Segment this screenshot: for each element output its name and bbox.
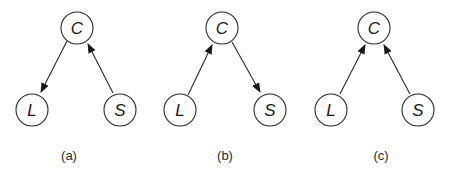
caption-a: (a) [61, 148, 77, 163]
panel-b: C L S (b) [164, 12, 286, 163]
node-s: S [254, 94, 286, 126]
node-l: L [16, 94, 48, 126]
node-c: C [358, 12, 390, 44]
node-c: C [61, 12, 93, 44]
caption-c: (c) [373, 148, 388, 163]
svg-text:C: C [368, 19, 381, 38]
edge-l-to-c [188, 45, 212, 95]
panel-a: C L S (a) [16, 12, 136, 163]
node-l: L [164, 94, 196, 126]
svg-text:L: L [27, 101, 36, 120]
node-l: L [315, 94, 347, 126]
panel-c: C L S (c) [315, 12, 434, 163]
svg-text:L: L [326, 101, 335, 120]
edge-s-to-c [384, 45, 410, 94]
edge-c-to-l [41, 41, 67, 92]
svg-text:S: S [114, 101, 126, 120]
svg-text:C: C [71, 19, 84, 38]
edge-l-to-c [340, 45, 365, 94]
node-c: C [206, 12, 238, 44]
node-s: S [402, 94, 434, 126]
svg-text:C: C [216, 19, 229, 38]
svg-text:L: L [175, 101, 184, 120]
edge-s-to-c [88, 44, 113, 93]
caption-b: (b) [217, 148, 233, 163]
causal-diagrams-figure: C L S (a) C L S (b) [0, 0, 453, 171]
node-s: S [104, 94, 136, 126]
svg-text:S: S [412, 101, 424, 120]
svg-text:S: S [264, 101, 276, 120]
edge-c-to-s [232, 42, 260, 92]
